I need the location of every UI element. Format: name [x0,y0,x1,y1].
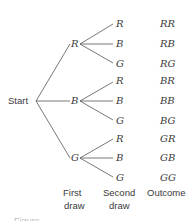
second-draw-node: R [115,75,124,86]
second-draw-node: B [115,152,123,163]
figure-caption-clipped: Figure [14,216,40,221]
branch-start-R [36,44,70,101]
second-draw-label-1: Second [103,187,135,198]
outcome-RR: RR [159,18,176,29]
second-draw-label-2: draw [109,200,130,211]
second-draw-node: R [115,133,124,144]
first-draw-label-1: First [63,187,82,198]
outcome-GG: GG [160,172,176,183]
outcome-BG: BG [159,115,176,126]
first-draw-B: B [70,95,78,106]
second-draw-node: B [115,38,123,49]
outcome-GB: GB [160,152,175,163]
outcome-label: Outcome [147,187,186,198]
first-draw-R: R [70,38,79,49]
outcome-BB: BB [159,95,175,106]
outcome-RB: RB [159,38,175,49]
outcome-GR: GR [160,133,176,144]
start-label: Start [8,95,28,106]
tree-diagram: Start R B G R B G R B G R B G RR RB RG B… [0,0,189,221]
second-draw-node: G [116,172,124,183]
branch-start-G [36,101,70,158]
second-draw-node: G [116,58,124,69]
outcome-BR: BR [159,75,175,86]
second-draw-node: B [115,95,123,106]
second-draw-node: G [116,115,124,126]
second-draw-node: R [115,18,124,29]
first-draw-G: G [71,152,79,163]
first-draw-label-2: draw [64,200,85,211]
outcome-RG: RG [159,58,176,69]
